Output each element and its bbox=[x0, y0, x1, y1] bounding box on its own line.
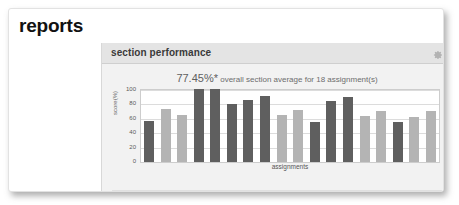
bar bbox=[426, 111, 436, 162]
bar bbox=[326, 101, 336, 162]
screenshot-root: reports section performance 77.45%* over… bbox=[0, 0, 459, 205]
bar bbox=[409, 117, 419, 162]
section-average-caption: overall section average for 18 assignmen… bbox=[218, 75, 378, 84]
section-average-value: 77.45%* bbox=[176, 72, 218, 84]
bar bbox=[360, 116, 370, 162]
bar bbox=[161, 109, 171, 162]
bar bbox=[144, 121, 154, 162]
y-tick-20: 20 bbox=[129, 144, 136, 150]
bar bbox=[243, 100, 253, 162]
bar-chart: score(%) 100806040200 assignments bbox=[114, 89, 440, 179]
bar bbox=[376, 111, 386, 162]
y-axis-ticks: 100806040200 bbox=[120, 89, 138, 161]
footer-divider bbox=[112, 190, 442, 191]
bar bbox=[293, 110, 303, 162]
y-tick-0: 0 bbox=[133, 158, 136, 164]
bar bbox=[194, 89, 204, 162]
bar-series bbox=[141, 90, 439, 162]
y-tick-100: 100 bbox=[126, 86, 136, 92]
gear-icon[interactable] bbox=[432, 47, 444, 59]
panel-subtitle: 77.45%* overall section average for 18 a… bbox=[102, 64, 444, 84]
bar bbox=[260, 96, 270, 162]
bar bbox=[210, 89, 220, 162]
bar bbox=[343, 97, 353, 162]
x-axis-label: assignments bbox=[140, 163, 440, 170]
bar bbox=[393, 122, 403, 162]
panel-header: section performance bbox=[102, 43, 444, 64]
bar bbox=[227, 104, 237, 162]
bar bbox=[177, 115, 187, 162]
y-tick-60: 60 bbox=[129, 115, 136, 121]
y-axis-label: score(%) bbox=[112, 91, 118, 115]
plot-area bbox=[140, 89, 440, 163]
reports-card: reports section performance 77.45%* over… bbox=[8, 8, 444, 192]
panel-title: section performance bbox=[111, 47, 211, 58]
y-tick-80: 80 bbox=[129, 100, 136, 106]
bar bbox=[310, 122, 320, 162]
y-tick-40: 40 bbox=[129, 129, 136, 135]
bar bbox=[277, 115, 287, 162]
section-performance-panel: section performance 77.45%* overall sect… bbox=[101, 43, 444, 192]
page-title: reports bbox=[19, 15, 83, 37]
